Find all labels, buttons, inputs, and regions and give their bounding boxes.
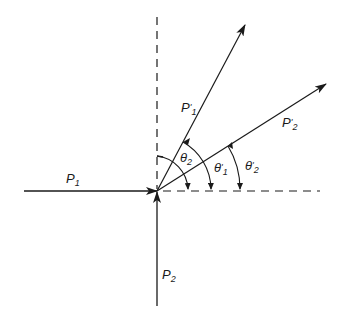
label-theta2: θ2 — [180, 150, 192, 167]
angle-arc-theta2-prime — [228, 146, 240, 189]
label-p1-prime: P'1 — [181, 100, 196, 117]
vector-p1-prime-arrow — [157, 25, 245, 191]
label-p2-prime: P'2 — [282, 115, 297, 132]
collision-vector-diagram: P1 P2 P'1 P'2 θ2 θ'1 θ'2 — [0, 0, 337, 320]
angle-arc-theta2-start-tick — [157, 156, 163, 157]
label-p1: P1 — [66, 171, 80, 188]
label-theta2-prime: θ'2 — [245, 158, 259, 175]
label-p2: P2 — [162, 267, 176, 284]
label-theta1-prime: θ'1 — [214, 160, 228, 177]
